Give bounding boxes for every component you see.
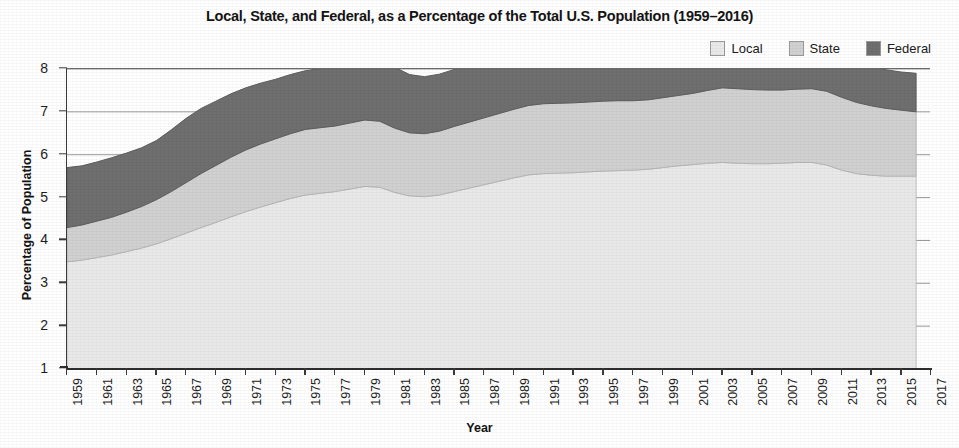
x-tick-label: 1969	[220, 378, 234, 406]
x-tick-label: 1963	[131, 378, 145, 406]
y-axis-title: Percentage of Population	[20, 115, 34, 335]
x-tick-mark	[185, 368, 186, 375]
x-tick-label: 2003	[726, 378, 740, 406]
legend-swatch-federal-icon	[866, 41, 881, 56]
x-tick-mark	[572, 368, 573, 375]
x-tick-mark	[66, 368, 67, 375]
legend-item-federal[interactable]: Federal	[866, 41, 931, 56]
legend-item-local[interactable]: Local	[710, 41, 762, 56]
x-tick-label: 1985	[458, 378, 472, 406]
y-tick-label: 3	[40, 274, 48, 290]
x-tick-label: 1961	[101, 378, 115, 406]
x-tick-label: 2007	[786, 378, 800, 406]
x-tick-mark	[543, 368, 544, 375]
x-tick-label: 1971	[250, 378, 264, 406]
legend-swatch-local-icon	[710, 41, 725, 56]
x-tick-label: 2001	[697, 378, 711, 406]
x-tick-label: 1993	[577, 378, 591, 406]
x-tick-label: 1973	[280, 378, 294, 406]
chart-title: Local, State, and Federal, as a Percenta…	[0, 8, 959, 24]
x-tick-mark	[930, 368, 931, 375]
plot-area	[66, 68, 930, 368]
x-tick-mark	[751, 368, 752, 375]
x-tick-label: 1983	[429, 378, 443, 406]
chart-legend: LocalStateFederal	[710, 41, 931, 56]
x-tick-label: 1965	[160, 378, 174, 406]
x-tick-label: 2005	[756, 378, 770, 406]
x-tick-mark	[155, 368, 156, 375]
x-tick-mark	[245, 368, 246, 375]
x-tick-label: 1967	[190, 378, 204, 406]
y-tick-label: 7	[40, 103, 48, 119]
chart-container: Local, State, and Federal, as a Percenta…	[0, 0, 959, 448]
y-tick-label: 6	[40, 146, 48, 162]
y-tick-label: 2	[40, 317, 48, 333]
x-tick-mark	[602, 368, 603, 375]
x-tick-label: 1997	[637, 378, 651, 406]
x-tick-mark	[841, 368, 842, 375]
legend-swatch-state-icon	[789, 41, 804, 56]
legend-label: Local	[731, 42, 762, 55]
x-tick-mark	[513, 368, 514, 375]
x-tick-mark	[334, 368, 335, 375]
x-tick-label: 1995	[607, 378, 621, 406]
x-tick-mark	[126, 368, 127, 375]
x-tick-label: 2013	[875, 378, 889, 406]
x-tick-label: 1987	[488, 378, 502, 406]
x-axis-line	[66, 368, 932, 370]
y-tick-label: 4	[40, 231, 48, 247]
x-tick-mark	[424, 368, 425, 375]
x-tick-mark	[632, 368, 633, 375]
x-tick-mark	[721, 368, 722, 375]
y-tick-label: 5	[40, 189, 48, 205]
x-tick-label: 1979	[369, 378, 383, 406]
x-tick-label: 2015	[905, 378, 919, 406]
x-tick-mark	[781, 368, 782, 375]
x-tick-label: 1975	[309, 378, 323, 406]
x-tick-mark	[870, 368, 871, 375]
x-tick-label: 1989	[518, 378, 532, 406]
x-tick-label: 1999	[667, 378, 681, 406]
x-axis-title: Year	[0, 421, 959, 435]
x-tick-mark	[275, 368, 276, 375]
x-tick-mark	[394, 368, 395, 375]
x-tick-mark	[662, 368, 663, 375]
x-tick-mark	[364, 368, 365, 375]
legend-label: State	[810, 42, 840, 55]
x-tick-mark	[692, 368, 693, 375]
x-tick-mark	[900, 368, 901, 375]
legend-item-state[interactable]: State	[789, 41, 840, 56]
x-tick-mark	[304, 368, 305, 375]
legend-label: Federal	[887, 42, 931, 55]
y-tick-label: 1	[40, 360, 48, 376]
x-tick-label: 1991	[548, 378, 562, 406]
stacked-area-plot	[67, 69, 930, 368]
x-tick-mark	[96, 368, 97, 375]
x-tick-label: 1959	[71, 378, 85, 406]
x-tick-mark	[811, 368, 812, 375]
x-tick-mark	[215, 368, 216, 375]
x-tick-label: 1977	[339, 378, 353, 406]
x-tick-label: 1981	[399, 378, 413, 406]
x-tick-mark	[483, 368, 484, 375]
x-tick-label: 2017	[935, 378, 949, 406]
x-tick-label: 2011	[846, 378, 860, 405]
x-tick-mark	[453, 368, 454, 375]
x-tick-label: 2009	[816, 378, 830, 406]
y-tick-label: 8	[40, 60, 48, 76]
